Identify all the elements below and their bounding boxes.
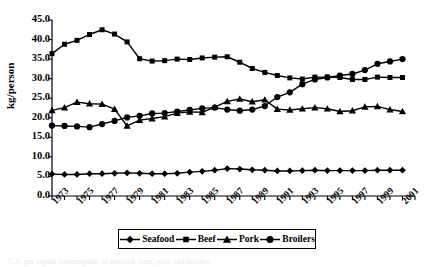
marker-square	[300, 77, 305, 82]
marker-square	[183, 236, 189, 242]
marker-diamond	[174, 170, 181, 177]
marker-circle	[49, 122, 55, 128]
marker-diamond	[61, 171, 68, 178]
marker-square	[150, 59, 155, 64]
marker-circle	[74, 123, 80, 129]
marker-diamond	[124, 170, 131, 177]
marker-square	[162, 58, 167, 63]
marker-diamond	[74, 171, 81, 178]
marker-square	[187, 57, 192, 62]
marker-circle	[399, 56, 405, 62]
marker-diamond	[236, 166, 243, 173]
marker-diamond	[286, 168, 293, 175]
marker-diamond	[126, 235, 134, 243]
marker-circle	[274, 94, 280, 100]
marker-square	[50, 51, 55, 56]
legend-marker-square	[175, 234, 197, 245]
marker-triangle	[73, 99, 80, 105]
marker-square	[262, 70, 267, 75]
marker-diamond	[374, 167, 381, 174]
marker-square	[237, 60, 242, 65]
marker-diamond	[324, 167, 331, 174]
marker-square	[400, 75, 405, 80]
marker-circle	[349, 71, 355, 77]
marker-circle	[387, 58, 393, 64]
legend-item-pork[interactable]: Pork	[216, 234, 259, 245]
legend-item-beef[interactable]: Beef	[175, 234, 216, 245]
marker-diamond	[387, 167, 394, 174]
marker-circle	[312, 76, 318, 82]
legend-label: Broilers	[282, 234, 315, 244]
marker-diamond	[224, 165, 231, 172]
marker-square	[62, 42, 67, 47]
marker-triangle	[261, 96, 268, 102]
legend-label: Beef	[198, 234, 216, 244]
marker-circle	[237, 108, 243, 114]
marker-square	[125, 39, 130, 44]
marker-circle	[111, 118, 117, 124]
marker-circle	[61, 123, 67, 129]
marker-circle	[212, 104, 218, 110]
marker-square	[287, 75, 292, 80]
marker-circle	[374, 61, 380, 67]
marker-diamond	[136, 170, 143, 177]
marker-circle	[249, 106, 255, 112]
marker-square	[375, 75, 380, 80]
marker-square	[200, 55, 205, 60]
figure-caption: U.S. per capita consumption of seafood, …	[8, 257, 428, 267]
series-line	[52, 59, 402, 127]
marker-circle	[287, 89, 293, 95]
marker-circle	[337, 72, 343, 78]
marker-diamond	[299, 167, 306, 174]
marker-circle	[267, 236, 274, 243]
marker-square	[137, 56, 142, 61]
legend-marker-triangle	[216, 234, 238, 245]
marker-square	[212, 55, 217, 60]
marker-circle	[149, 110, 155, 116]
marker-circle	[299, 81, 305, 87]
marker-diamond	[349, 167, 356, 174]
legend-marker-diamond	[119, 234, 141, 245]
marker-circle	[86, 124, 92, 130]
marker-diamond	[99, 170, 106, 177]
marker-diamond	[311, 167, 318, 174]
marker-circle	[174, 108, 180, 114]
marker-circle	[224, 106, 230, 112]
marker-diamond	[111, 170, 118, 177]
marker-square	[87, 32, 92, 37]
marker-diamond	[199, 168, 206, 175]
marker-circle	[162, 110, 168, 116]
marker-diamond	[161, 170, 168, 177]
marker-circle	[136, 113, 142, 119]
marker-diamond	[337, 167, 344, 174]
marker-square	[250, 66, 255, 71]
marker-circle	[262, 103, 268, 109]
marker-diamond	[399, 167, 406, 174]
marker-diamond	[362, 167, 369, 174]
marker-square	[350, 77, 355, 82]
chart-figure: kg/person 45.040.035.030.025.020.015.010…	[0, 0, 432, 267]
marker-diamond	[261, 167, 268, 174]
legend-label: Pork	[239, 234, 259, 244]
marker-circle	[99, 121, 105, 127]
legend-item-seafood[interactable]: Seafood	[119, 234, 174, 245]
marker-diamond	[86, 170, 93, 177]
marker-square	[100, 27, 105, 32]
series-seafood	[49, 165, 406, 178]
marker-diamond	[249, 166, 256, 173]
legend-item-broilers[interactable]: Broilers	[259, 234, 315, 245]
marker-circle	[362, 67, 368, 73]
legend-marker-circle	[259, 234, 281, 245]
series-broilers	[49, 56, 406, 130]
marker-square	[175, 57, 180, 62]
marker-circle	[324, 74, 330, 80]
marker-square	[275, 73, 280, 78]
marker-diamond	[211, 167, 218, 174]
marker-circle	[187, 107, 193, 113]
marker-diamond	[149, 170, 156, 177]
marker-circle	[199, 105, 205, 111]
marker-diamond	[186, 169, 193, 176]
marker-circle	[124, 114, 130, 120]
marker-square	[112, 32, 117, 37]
marker-triangle	[236, 95, 243, 101]
